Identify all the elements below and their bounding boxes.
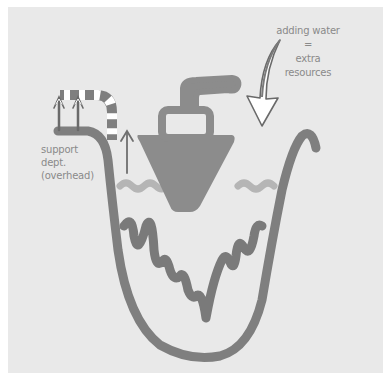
adding-water-label: adding water = extra resources xyxy=(266,24,350,80)
adding-water-line-1: adding water xyxy=(266,24,350,38)
adding-water-line-4: resources xyxy=(266,66,350,80)
boat-cabin xyxy=(162,110,210,138)
rising-arrows-icon xyxy=(54,97,83,130)
support-dept-label: support dept. (overhead) xyxy=(41,143,94,182)
support-dept-line-1: support xyxy=(41,143,94,156)
boat-hull xyxy=(137,135,234,212)
boat-funnel xyxy=(183,78,238,108)
support-dept-line-3: (overhead) xyxy=(41,169,94,182)
up-arrow-icon xyxy=(121,131,133,173)
adding-water-line-2: = xyxy=(266,38,350,52)
adding-water-line-3: extra xyxy=(266,52,350,66)
support-dept-line-2: dept. xyxy=(41,156,94,169)
rocks-bottom xyxy=(124,222,262,318)
